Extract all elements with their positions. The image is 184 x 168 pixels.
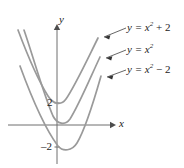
leader-line-x2-plus-2 [104, 28, 126, 40]
leader-line-x2 [106, 50, 126, 61]
curve-label-x2-plus-2: y = x2 + 2 [127, 21, 170, 33]
curve-label-tail-1: + 2 [153, 21, 170, 33]
curve-label-eq-3: = x [132, 63, 150, 75]
curve-label-x2-minus-2: y = x2 − 2 [127, 63, 170, 75]
curve-x2-minus-2 [20, 66, 101, 150]
curve-label-exp-2: 2 [150, 42, 154, 50]
y-tick-label-2: 2 [47, 97, 53, 108]
curve-label-tail-3: − 2 [153, 63, 170, 75]
y-tick-label-minus-2: –2 [41, 141, 52, 152]
x-axis-label: x [119, 118, 124, 129]
leader-line-x2-minus-2 [107, 70, 126, 80]
curve-label-eq-2: = x [132, 43, 150, 55]
figure-canvas: x y 2 –2 y = x2 + 2 y = x2 y = x2 − 2 [0, 0, 184, 168]
x-axis-arrowhead [110, 122, 116, 128]
leader-lines-group [104, 28, 126, 80]
curve-x2 [24, 30, 100, 123]
y-axis-label: y [59, 14, 64, 25]
curve-label-x2: y = x2 [127, 43, 153, 55]
curve-label-eq-1: = x [132, 21, 150, 33]
